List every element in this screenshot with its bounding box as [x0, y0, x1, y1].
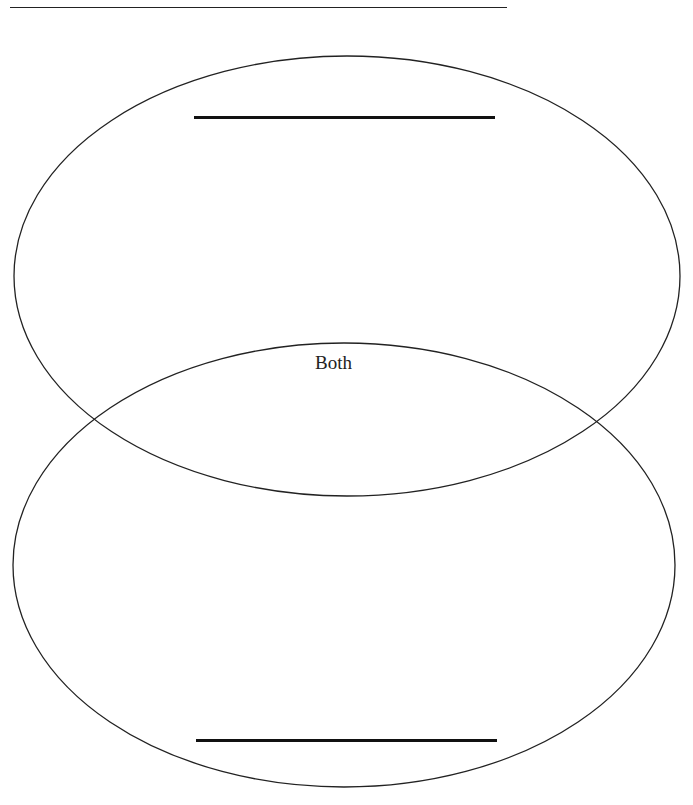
top-title-blank[interactable]: [194, 116, 495, 119]
overlap-label-text: Both: [315, 352, 352, 373]
venn-diagram: [0, 0, 693, 805]
bottom-title-blank[interactable]: [196, 739, 497, 742]
top-ellipse: [14, 56, 680, 496]
overlap-label: Both: [0, 352, 693, 374]
bottom-ellipse: [13, 343, 675, 787]
